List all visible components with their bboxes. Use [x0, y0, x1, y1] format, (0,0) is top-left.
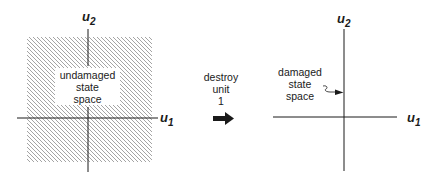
region-line-3: space [55, 93, 120, 105]
region-line-2: state [55, 81, 120, 93]
undamaged-state-space-label: undamaged state space [55, 69, 120, 105]
left-u2-label-text: u [82, 9, 90, 24]
right-u1-label: u1 [407, 110, 421, 128]
region-line-2: state [275, 78, 325, 90]
right-u2-label-text: u [337, 11, 345, 26]
transition-line-1: destroy [196, 71, 246, 83]
transition-line-3: 1 [196, 95, 246, 107]
left-u1-label: u1 [160, 110, 174, 128]
right-u2-label-sub: 2 [345, 18, 351, 29]
region-line-1: undamaged [55, 69, 120, 81]
pointer-arrowhead-icon [335, 90, 344, 96]
transition-line-2: unit [196, 83, 246, 95]
right-u1-label-sub: 1 [415, 117, 421, 128]
damaged-state-space-label: damaged state space [275, 66, 325, 102]
region-line-1: damaged [275, 66, 325, 78]
left-u2-label-sub: 2 [90, 16, 96, 27]
right-arrow-icon [213, 112, 234, 125]
right-u1-label-text: u [407, 110, 415, 125]
left-u1-label-text: u [160, 110, 168, 125]
left-u2-label: u2 [82, 9, 96, 27]
left-u1-label-sub: 1 [168, 117, 174, 128]
region-line-3: space [275, 90, 325, 102]
transition-label: destroy unit 1 [196, 71, 246, 107]
right-u2-label: u2 [337, 11, 351, 29]
